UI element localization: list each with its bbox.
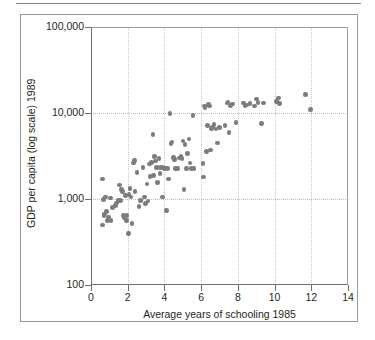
x-axis-label-6: 6 <box>186 292 216 303</box>
y-axis-label-1000: 1,000 <box>58 193 84 204</box>
y-axis-label-100000: 100,000 <box>46 21 84 32</box>
plot-area <box>91 27 348 285</box>
x-axis-label-8: 8 <box>223 292 253 303</box>
x-axis-label-2: 2 <box>113 292 143 303</box>
y-tick-1000 <box>85 199 91 200</box>
y-tick-10000 <box>85 113 91 114</box>
x-axis-label-14: 14 <box>333 292 363 303</box>
figure-page: 100,000 10,000 1,000 100 0 2 4 6 8 10 12… <box>0 0 375 340</box>
x-axis-label-10: 10 <box>260 292 290 303</box>
y-axis-label-10000: 10,000 <box>52 107 84 118</box>
x-axis-label-12: 12 <box>296 292 326 303</box>
x-axis-label-0: 0 <box>76 292 106 303</box>
x-axis-title: Average years of schooling 1985 <box>91 309 348 320</box>
y-axis-label-100: 100 <box>66 279 84 290</box>
y-tick-100000 <box>85 27 91 28</box>
y-axis-title: GDP per capita (log scale) 1989 <box>26 68 37 238</box>
x-axis-label-4: 4 <box>149 292 179 303</box>
page-top-rule <box>16 3 361 4</box>
